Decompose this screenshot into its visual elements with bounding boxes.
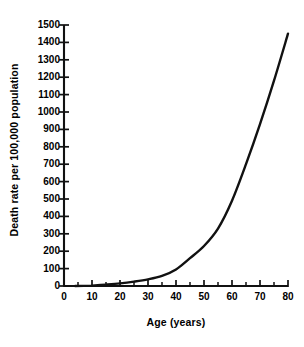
axes-group [59,25,288,287]
chart-figure: Death rate per 100,000 population 010020… [0,0,304,347]
death-rate-line [75,34,288,286]
data-series-group [75,34,288,286]
x-axis-title: Age (years) [64,316,288,328]
chart-plot-area [0,0,304,347]
